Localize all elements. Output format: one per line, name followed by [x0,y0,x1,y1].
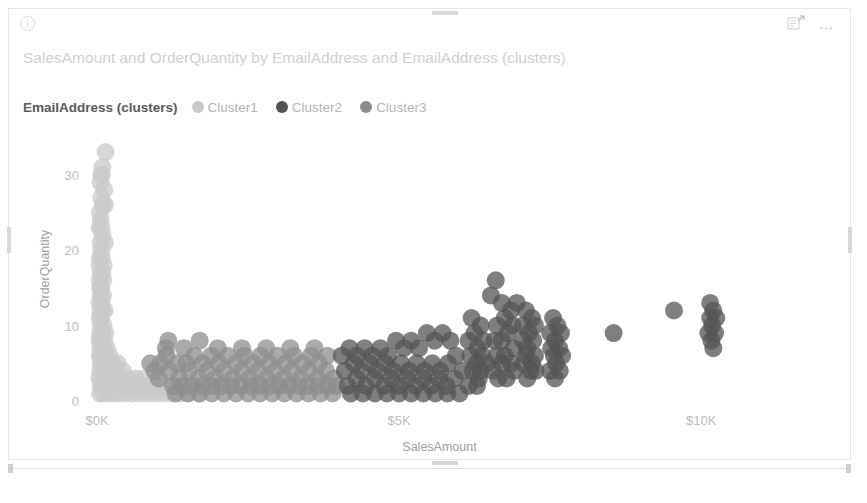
data-point[interactable] [463,309,481,327]
data-point[interactable] [175,339,193,357]
x-axis-tick-label: $5K [388,413,411,428]
corner-marker-left [8,464,13,473]
data-point[interactable] [489,369,507,387]
chart-legend: EmailAddress (clusters) Cluster1 Cluster… [23,97,444,117]
legend-title: EmailAddress (clusters) [23,100,178,115]
data-point[interactable] [665,302,683,320]
data-points-group [90,143,725,402]
data-point[interactable] [233,339,251,357]
visual-header: … [9,9,852,39]
data-point[interactable] [704,339,722,357]
data-point[interactable] [306,339,324,357]
data-point[interactable] [486,332,504,350]
x-axis-group: $0K$5K$10K [85,413,716,428]
y-axis-title: OrderQuantity [38,229,52,308]
data-point[interactable] [96,324,114,342]
legend-swatch-cluster1 [192,101,204,113]
legend-item-cluster2[interactable]: Cluster2 [276,100,342,115]
y-axis-tick-label: 10 [65,319,79,334]
data-point[interactable] [95,256,113,274]
data-point[interactable] [95,362,113,380]
y-axis-tick-label: 30 [65,168,79,183]
canvas-divider [8,468,851,469]
data-point[interactable] [93,219,111,237]
data-point[interactable] [605,324,623,342]
x-axis-tick-label: $0K [85,413,108,428]
data-point[interactable] [93,166,111,184]
resize-handle-left[interactable] [7,227,11,253]
resize-handle-top[interactable] [432,11,458,15]
data-point[interactable] [281,339,299,357]
data-point[interactable] [546,369,564,387]
series-cluster3 [141,332,345,403]
data-point[interactable] [94,196,112,214]
data-point[interactable] [518,369,536,387]
x-axis-tick-label: $10K [686,413,717,428]
corner-marker-right [846,464,851,473]
y-axis-tick-label: 20 [65,243,79,258]
data-point[interactable] [96,302,114,320]
data-point[interactable] [191,332,209,350]
y-axis-group: 0102030 [65,168,79,409]
data-point[interactable] [257,339,275,357]
data-point[interactable] [97,143,115,161]
resize-handle-bottom[interactable] [432,461,458,465]
y-axis-tick-label: 0 [72,394,79,409]
scatter-plot-svg: 0102030 $0K$5K$10K SalesAmountOrderQuant… [9,127,852,461]
series-cluster2 [333,271,726,402]
chart-title: SalesAmount and OrderQuantity by EmailAd… [23,47,813,69]
legend-swatch-cluster3 [360,101,372,113]
power-bi-visual-container[interactable]: … SalesAmount and OrderQuantity by Email… [8,8,851,460]
scatter-plot-area[interactable]: 0102030 $0K$5K$10K SalesAmountOrderQuant… [9,127,852,461]
more-options-icon[interactable]: … [816,15,838,32]
legend-label-cluster3: Cluster3 [376,100,426,115]
x-axis-title: SalesAmount [402,440,477,454]
legend-item-cluster1[interactable]: Cluster1 [192,100,258,115]
legend-swatch-cluster2 [276,101,288,113]
resize-handle-right[interactable] [848,227,852,253]
legend-item-cluster3[interactable]: Cluster3 [360,100,426,115]
data-point[interactable] [141,354,159,372]
data-point[interactable] [150,369,168,387]
legend-label-cluster2: Cluster2 [292,100,342,115]
data-point[interactable] [468,377,486,395]
info-circle-icon[interactable] [19,15,36,32]
focus-mode-icon[interactable] [787,15,806,32]
legend-label-cluster1: Cluster1 [208,100,258,115]
data-point[interactable] [159,332,177,350]
data-point[interactable] [209,339,227,357]
